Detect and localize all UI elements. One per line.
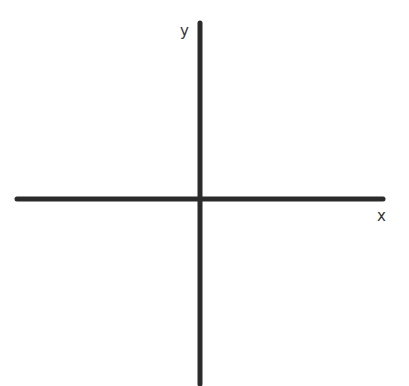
x-axis-label: x (377, 207, 386, 225)
y-axis-label: y (180, 22, 189, 40)
axes-diagram: y x (0, 0, 409, 386)
